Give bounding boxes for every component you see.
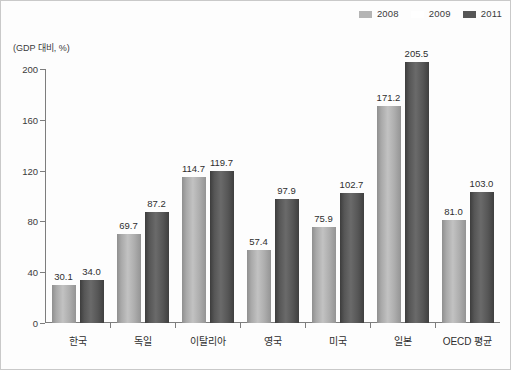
bar-group: 75.9102.7미국: [305, 69, 370, 323]
x-axis-category-label: 영국: [264, 333, 282, 348]
x-axis-tick-mark: [240, 323, 241, 328]
bar-value-label: 69.7: [119, 220, 138, 231]
bar-fill: [405, 62, 429, 323]
bar-2011[interactable]: 97.9: [275, 199, 299, 323]
chart-legend: 200820092011: [359, 7, 502, 21]
x-axis-category-label: 이탈리아: [190, 333, 226, 348]
x-axis-category-label: 한국: [69, 333, 87, 348]
bar-2011[interactable]: 34.0: [80, 280, 104, 323]
legend-label: 2011: [481, 9, 502, 19]
bar-2011[interactable]: 119.7: [210, 171, 234, 323]
x-axis-category-label: 독일: [134, 333, 152, 348]
x-axis-tick-mark: [305, 323, 306, 328]
bar-fill: [145, 212, 169, 323]
bar-fill: [312, 227, 336, 323]
y-axis-tick-label: 40: [27, 267, 38, 278]
bar-value-label: 102.7: [340, 179, 364, 190]
bar-fill: [470, 192, 494, 323]
bar-value-label: 119.7: [210, 157, 233, 168]
y-axis-tick-label: 0: [33, 318, 38, 329]
bar-2008[interactable]: 69.7: [117, 234, 141, 323]
bar-fill: [210, 171, 234, 323]
y-axis-tick-label: 200: [22, 64, 38, 75]
bar-value-label: 75.9: [314, 213, 333, 224]
bar-value-label: 97.9: [277, 185, 296, 196]
legend-swatch-icon: [359, 11, 372, 18]
bar-value-label: 57.4: [249, 236, 268, 247]
legend-label: 2008: [377, 9, 399, 19]
x-axis-tick-mark: [175, 323, 176, 328]
x-axis-category-label: 일본: [394, 333, 412, 348]
bar-value-label: 114.7: [182, 163, 205, 174]
bar-2011[interactable]: 102.7: [340, 193, 364, 323]
bar-fill: [80, 280, 104, 323]
x-axis-tick-mark: [370, 323, 371, 328]
bar-group: 57.497.9영국: [240, 69, 305, 323]
y-axis-unit-label: (GDP 대비, %): [13, 41, 70, 54]
legend-swatch-icon: [463, 11, 476, 18]
x-axis-tick-mark: [110, 323, 111, 328]
bar-group: 171.2205.5일본: [370, 69, 435, 323]
bar-value-label: 34.0: [82, 266, 101, 277]
legend-swatch-icon: [411, 11, 424, 18]
x-axis-category-label: OECD 평균: [443, 333, 493, 348]
bar-2011[interactable]: 103.0: [470, 192, 494, 323]
bar-fill: [247, 250, 271, 323]
chart-container: 200820092011 (GDP 대비, %) 040801201602003…: [0, 0, 511, 370]
plot-area: 0408012016020030.134.0한국69.787.2독일114.71…: [45, 69, 500, 323]
bar-fill: [117, 234, 141, 323]
bar-group: 81.0103.0OECD 평균: [435, 69, 500, 323]
bar-fill: [182, 177, 206, 323]
bar-2008[interactable]: 30.1: [52, 285, 76, 323]
y-axis-tick-mark: [40, 323, 45, 324]
bar-group: 30.134.0한국: [45, 69, 110, 323]
bar-value-label: 103.0: [470, 178, 494, 189]
bar-fill: [340, 193, 364, 323]
bar-value-label: 81.0: [444, 206, 463, 217]
bar-group: 69.787.2독일: [110, 69, 175, 323]
bar-fill: [275, 199, 299, 323]
bar-fill: [377, 106, 401, 323]
x-axis-tick-mark: [435, 323, 436, 328]
bar-group: 114.7119.7이탈리아: [175, 69, 240, 323]
legend-item-2008: 2008: [359, 9, 399, 19]
legend-item-2009: 2009: [411, 9, 451, 19]
bar-2011[interactable]: 87.2: [145, 212, 169, 323]
legend-item-2011: 2011: [463, 9, 502, 19]
bar-2008[interactable]: 57.4: [247, 250, 271, 323]
bar-2008[interactable]: 81.0: [442, 220, 466, 323]
bar-value-label: 87.2: [147, 198, 166, 209]
bar-2008[interactable]: 114.7: [182, 177, 206, 323]
y-axis-tick-label: 80: [27, 216, 38, 227]
legend-label: 2009: [429, 9, 451, 19]
y-axis-tick-label: 160: [22, 114, 38, 125]
bar-fill: [52, 285, 76, 323]
y-axis-tick-label: 120: [22, 165, 38, 176]
bar-fill: [442, 220, 466, 323]
bar-2008[interactable]: 171.2: [377, 106, 401, 323]
bar-value-label: 30.1: [54, 271, 73, 282]
bar-2008[interactable]: 75.9: [312, 227, 336, 323]
bar-value-label: 171.2: [377, 92, 401, 103]
x-axis-category-label: 미국: [329, 333, 347, 348]
bar-2011[interactable]: 205.5: [405, 62, 429, 323]
bar-value-label: 205.5: [405, 48, 429, 59]
